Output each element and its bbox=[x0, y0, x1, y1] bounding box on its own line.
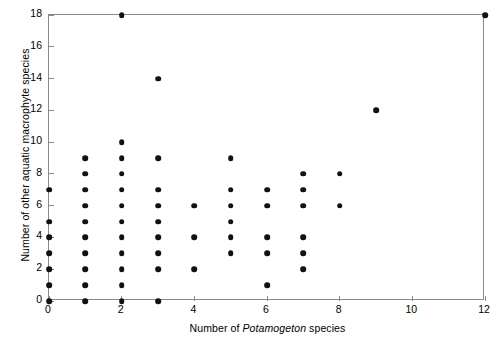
data-point bbox=[337, 171, 343, 177]
data-point bbox=[83, 203, 89, 209]
data-point bbox=[83, 235, 89, 241]
data-point bbox=[264, 251, 270, 257]
x-axis-tick-label: 2 bbox=[101, 304, 141, 315]
y-axis-tick bbox=[49, 15, 54, 16]
data-point bbox=[83, 266, 89, 272]
data-point bbox=[119, 12, 125, 18]
data-point bbox=[192, 203, 198, 209]
y-axis-tick-label: 10 bbox=[0, 135, 42, 146]
data-point bbox=[119, 187, 125, 193]
x-axis-tick-label: 8 bbox=[319, 304, 359, 315]
y-axis-tick-label: 16 bbox=[0, 40, 42, 51]
y-axis-tick-label: 12 bbox=[0, 103, 42, 114]
x-axis-tick bbox=[339, 296, 340, 301]
data-point bbox=[337, 203, 343, 209]
x-axis-tick-label: 10 bbox=[391, 304, 431, 315]
data-point bbox=[83, 251, 89, 257]
x-axis-tick-label: 4 bbox=[173, 304, 213, 315]
data-point bbox=[373, 108, 379, 114]
y-axis-tick-label: 2 bbox=[0, 262, 42, 273]
data-point bbox=[264, 282, 270, 288]
data-point bbox=[155, 76, 161, 82]
data-point bbox=[119, 235, 125, 241]
y-axis-tick bbox=[49, 46, 54, 47]
data-point bbox=[155, 219, 161, 225]
data-point bbox=[301, 266, 307, 272]
y-axis-tick-label: 8 bbox=[0, 167, 42, 178]
data-point bbox=[192, 266, 198, 272]
data-point bbox=[155, 298, 161, 304]
data-point bbox=[83, 187, 89, 193]
data-point bbox=[155, 235, 161, 241]
data-point bbox=[119, 219, 125, 225]
scatter-plot-figure: Number of other aquatic macrophyte speci… bbox=[0, 0, 498, 347]
x-axis-tick-label: 6 bbox=[246, 304, 286, 315]
data-point bbox=[119, 155, 125, 161]
data-point bbox=[46, 235, 52, 241]
data-point bbox=[155, 155, 161, 161]
data-point bbox=[155, 251, 161, 257]
data-point bbox=[264, 187, 270, 193]
data-point bbox=[83, 219, 89, 225]
data-point bbox=[482, 12, 488, 18]
data-point bbox=[192, 235, 198, 241]
data-point bbox=[301, 171, 307, 177]
data-point bbox=[155, 187, 161, 193]
data-point bbox=[119, 203, 125, 209]
data-point bbox=[301, 251, 307, 257]
data-point bbox=[46, 187, 52, 193]
data-point bbox=[228, 219, 234, 225]
x-axis-title-part-3: species bbox=[306, 322, 345, 334]
x-axis-title-part-1: Number of bbox=[190, 322, 243, 334]
data-point bbox=[228, 155, 234, 161]
data-point bbox=[228, 251, 234, 257]
data-point bbox=[119, 266, 125, 272]
data-point bbox=[301, 187, 307, 193]
y-axis-tick-label: 18 bbox=[0, 8, 42, 19]
x-axis-tick bbox=[485, 296, 486, 301]
x-axis-title-genus: Potamogeton bbox=[243, 322, 307, 334]
y-axis-tick bbox=[49, 78, 54, 79]
data-point bbox=[119, 282, 125, 288]
data-point bbox=[83, 171, 89, 177]
data-point bbox=[119, 171, 125, 177]
data-point bbox=[119, 139, 125, 145]
y-axis-tick bbox=[49, 173, 54, 174]
y-axis-tick-label: 14 bbox=[0, 72, 42, 83]
data-point bbox=[83, 282, 89, 288]
data-point bbox=[83, 155, 89, 161]
data-point bbox=[228, 203, 234, 209]
y-axis-tick-label: 4 bbox=[0, 230, 42, 241]
data-point bbox=[228, 187, 234, 193]
data-point bbox=[264, 235, 270, 241]
data-point bbox=[155, 266, 161, 272]
x-axis-tick-label: 12 bbox=[464, 304, 498, 315]
x-axis-tick-label: 0 bbox=[28, 304, 68, 315]
y-axis-tick bbox=[49, 142, 54, 143]
data-point bbox=[46, 266, 52, 272]
x-axis-tick bbox=[267, 296, 268, 301]
data-point bbox=[228, 235, 234, 241]
plot-area bbox=[48, 14, 484, 300]
data-point bbox=[46, 251, 52, 257]
y-axis-tick-label: 6 bbox=[0, 199, 42, 210]
data-point bbox=[264, 203, 270, 209]
data-point bbox=[46, 282, 52, 288]
data-point bbox=[119, 251, 125, 257]
x-axis-title: Number of Potamogeton species bbox=[47, 322, 488, 334]
x-axis-tick bbox=[412, 296, 413, 301]
y-axis-tick bbox=[49, 205, 54, 206]
x-axis-tick bbox=[194, 296, 195, 301]
data-point bbox=[301, 203, 307, 209]
data-point bbox=[155, 203, 161, 209]
data-point bbox=[83, 298, 89, 304]
y-axis-tick bbox=[49, 110, 54, 111]
data-point bbox=[46, 219, 52, 225]
data-point bbox=[301, 235, 307, 241]
